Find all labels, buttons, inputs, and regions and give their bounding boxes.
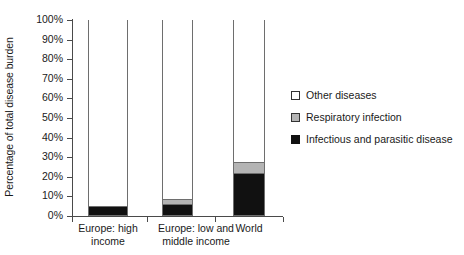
bar-world[interactable] (233, 20, 265, 216)
bar-segment-respiratory-infection (163, 199, 192, 205)
legend-swatch-other-diseases (291, 91, 300, 100)
bar-segment-other-diseases (89, 19, 127, 206)
legend-label-other-diseases: Other diseases (306, 89, 377, 101)
y-axis-tick (67, 177, 72, 178)
y-axis-tick-label: 90% (23, 34, 63, 45)
y-axis-tick (67, 157, 72, 158)
bar-segment-other-diseases (163, 19, 192, 199)
y-axis-tick-label: 80% (23, 53, 63, 64)
bar-europe-low-and-middle-income[interactable] (162, 20, 193, 216)
bar-segment-infectious-parasitic (89, 207, 127, 215)
y-axis-tick-label: 0% (23, 210, 63, 221)
bar-segment-respiratory-infection (234, 162, 264, 174)
x-axis-tick (283, 217, 284, 222)
y-axis-tick (67, 20, 72, 21)
stacked-bar-chart: Percentage of total disease burden 100%9… (0, 0, 464, 255)
legend-swatch-respiratory-infection (291, 113, 300, 122)
bar-segment-other-diseases (234, 19, 264, 162)
legend-swatch-infectious-parasitic (291, 135, 300, 144)
legend: Other diseases Respiratory infection Inf… (291, 84, 461, 150)
bar-segment-infectious-parasitic (234, 174, 264, 215)
legend-label-infectious-parasitic: Infectious and parasitic disease (306, 133, 453, 145)
bar-europe-high-income[interactable] (88, 20, 128, 216)
legend-label-respiratory-infection: Respiratory infection (306, 111, 402, 123)
y-axis-title: Percentage of total disease burden (3, 17, 19, 217)
legend-item-other-diseases[interactable]: Other diseases (291, 84, 461, 106)
y-axis-tick-label: 10% (23, 190, 63, 201)
y-axis-line (72, 19, 73, 217)
x-axis-label: Europe: highincome (66, 222, 150, 248)
legend-item-respiratory-infection[interactable]: Respiratory infection (291, 106, 461, 128)
y-axis-tick (67, 196, 72, 197)
y-axis-tick (67, 40, 72, 41)
y-axis-tick-label: 70% (23, 73, 63, 84)
y-axis-tick-label: 60% (23, 92, 63, 103)
x-axis-line (72, 216, 283, 217)
y-axis-tick (67, 138, 72, 139)
y-axis-tick (67, 79, 72, 80)
bar-segment-infectious-parasitic (163, 205, 192, 215)
y-axis-tick-label: 20% (23, 171, 63, 182)
y-axis-tick-label: 40% (23, 132, 63, 143)
y-axis-tick (67, 59, 72, 60)
y-axis-tick (67, 98, 72, 99)
y-axis-tick-label: 50% (23, 112, 63, 123)
y-axis-tick-label: 30% (23, 151, 63, 162)
legend-item-infectious-parasitic[interactable]: Infectious and parasitic disease (291, 128, 461, 150)
x-axis-label: World (215, 222, 283, 235)
y-axis-tick (67, 118, 72, 119)
y-axis-tick-label: 100% (23, 14, 63, 25)
